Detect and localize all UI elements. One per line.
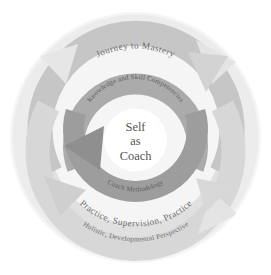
center-label-line-2: as <box>130 134 140 148</box>
diagram-canvas: Holistic, Developmental Perspective Prac… <box>0 0 271 275</box>
center-label-line-3: Coach <box>120 149 152 163</box>
self-as-coach-diagram: Holistic, Developmental Perspective Prac… <box>0 0 271 275</box>
center-label-line-1: Self <box>126 120 147 134</box>
